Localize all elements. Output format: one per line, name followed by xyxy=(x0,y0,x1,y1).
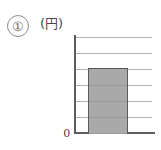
y-axis-line xyxy=(74,35,76,134)
y-tick-label-0: 0 xyxy=(58,126,70,139)
bar-gridline-50 xyxy=(89,117,127,118)
bar-gridline-25 xyxy=(89,133,127,134)
y-axis-unit-label: (円) xyxy=(40,15,63,33)
gridline-175 xyxy=(74,37,152,38)
bar-gridline-75 xyxy=(89,101,127,102)
item-number-badge: ① xyxy=(7,15,29,37)
chart-figure: — — — ① (円) 100 0 xyxy=(0,0,161,150)
gridline-150 xyxy=(74,53,152,54)
clipped-top-text: — — — xyxy=(0,0,161,7)
plot-area xyxy=(74,34,155,134)
bar-series-0 xyxy=(88,68,128,134)
bar-gridline-100 xyxy=(89,85,127,86)
clipped-top-text-glyphs: — — — xyxy=(28,0,106,6)
